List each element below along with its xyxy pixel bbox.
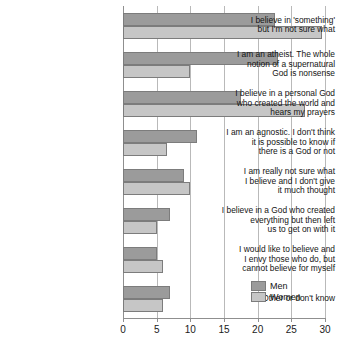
legend-swatch-men-icon xyxy=(251,281,266,291)
category-label-line: there is a God or not xyxy=(221,147,335,157)
tick-mark-0 xyxy=(123,318,124,322)
bar-men xyxy=(123,286,170,299)
category-label: I believe in a personal Godwho created t… xyxy=(221,89,339,118)
legend-item-men: Men xyxy=(251,280,288,291)
category-label-line: us to get on with it xyxy=(221,225,335,235)
category-label-line: cannot believe for myself xyxy=(221,264,335,274)
legend-swatch-women-icon xyxy=(251,292,266,302)
tick-mark-10 xyxy=(190,318,191,322)
category-label: I am really not sure whatI believe and I… xyxy=(221,167,339,196)
bar-women xyxy=(123,182,190,195)
x-tick-label: 5 xyxy=(154,324,160,336)
x-tick-label: 20 xyxy=(252,324,263,336)
tick-mark-5 xyxy=(157,318,158,322)
bar-chart: 051015202530 I believe in 'something'but… xyxy=(0,0,339,353)
bar-women xyxy=(123,260,163,273)
category-label: I am an agnostic. I don't thinkit is pos… xyxy=(221,128,339,157)
x-tick-label: 25 xyxy=(286,324,297,336)
bar-men xyxy=(123,247,157,260)
tick-mark-30 xyxy=(325,318,326,322)
category-label: I would like to believe andI envy those … xyxy=(221,245,339,274)
tick-mark-15 xyxy=(224,318,225,322)
x-tick-label: 0 xyxy=(120,324,126,336)
legend-item-women: Women xyxy=(251,291,301,302)
x-tick-label: 30 xyxy=(319,324,330,336)
tick-mark-20 xyxy=(258,318,259,322)
bar-women xyxy=(123,65,190,78)
bar-men xyxy=(123,208,170,221)
bar-women xyxy=(123,299,163,312)
bar-men xyxy=(123,130,197,143)
category-label-line: but I'm not sure what xyxy=(221,25,335,35)
legend-label-women: Women xyxy=(270,292,301,302)
category-label-line: hears my prayers xyxy=(221,108,335,118)
bar-women xyxy=(123,143,167,156)
category-label-line: God is nonsense xyxy=(221,69,335,79)
category-label: I believe in a God who createdeverything… xyxy=(221,206,339,235)
chart-legend: Men Women xyxy=(251,280,325,306)
bar-men xyxy=(123,169,184,182)
x-tick-label: 15 xyxy=(218,324,229,336)
bar-women xyxy=(123,221,157,234)
category-label-line: it much thought xyxy=(221,186,335,196)
category-label: I am an atheist. The wholenotion of a su… xyxy=(221,50,339,79)
legend-label-men: Men xyxy=(270,281,288,291)
tick-mark-25 xyxy=(291,318,292,322)
category-label: I believe in 'something'but I'm not sure… xyxy=(221,16,339,35)
x-tick-label: 10 xyxy=(185,324,196,336)
